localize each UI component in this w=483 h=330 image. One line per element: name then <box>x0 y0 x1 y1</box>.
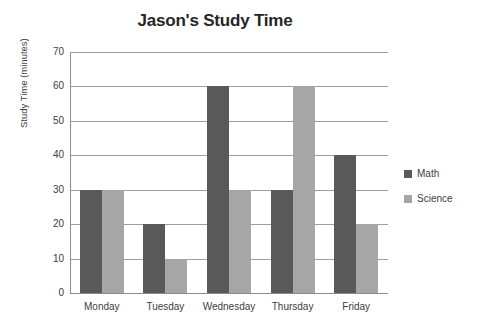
y-tick-label-70: 70 <box>38 47 64 57</box>
x-tick-label-tuesday: Tuesday <box>134 302 198 312</box>
legend-item-math[interactable]: Math <box>404 168 453 180</box>
legend-label-science: Science <box>417 194 453 204</box>
chart-legend: MathScience <box>404 168 453 218</box>
bar-math-thursday[interactable] <box>271 190 293 293</box>
bar-science-wednesday[interactable] <box>229 190 251 293</box>
y-axis-title: Study Time (minutes) <box>18 0 29 128</box>
y-tick-label-40: 40 <box>38 150 64 160</box>
bar-math-tuesday[interactable] <box>143 224 165 293</box>
x-tick-label-thursday: Thursday <box>261 302 325 312</box>
legend-label-math: Math <box>417 169 439 179</box>
y-tick-label-0: 0 <box>38 288 64 298</box>
bar-group-monday <box>80 52 124 293</box>
chart-title: Jason's Study Time <box>0 11 430 31</box>
x-tick-label-friday: Friday <box>324 302 388 312</box>
x-tick-label-monday: Monday <box>70 302 134 312</box>
legend-swatch-icon-math <box>404 170 412 178</box>
y-tick-label-60: 60 <box>38 81 64 91</box>
bar-science-thursday[interactable] <box>293 86 315 293</box>
bar-science-monday[interactable] <box>102 190 124 293</box>
bar-science-tuesday[interactable] <box>165 259 187 293</box>
gridline-0 <box>70 293 388 294</box>
bar-math-wednesday[interactable] <box>207 86 229 293</box>
y-tick-label-30: 30 <box>38 185 64 195</box>
bar-group-tuesday <box>143 52 187 293</box>
y-tick-label-50: 50 <box>38 116 64 126</box>
bar-science-friday[interactable] <box>356 224 378 293</box>
plot-area <box>70 52 388 293</box>
bar-group-thursday <box>271 52 315 293</box>
bar-group-wednesday <box>207 52 251 293</box>
bar-group-friday <box>334 52 378 293</box>
bar-math-monday[interactable] <box>80 190 102 293</box>
bar-math-friday[interactable] <box>334 155 356 293</box>
y-tick-label-10: 10 <box>38 254 64 264</box>
y-tick-label-20: 20 <box>38 219 64 229</box>
x-tick-label-wednesday: Wednesday <box>197 302 261 312</box>
legend-item-science[interactable]: Science <box>404 193 453 205</box>
legend-swatch-icon-science <box>404 195 412 203</box>
y-axis-tick-labels: 706050403020100 <box>36 0 64 330</box>
